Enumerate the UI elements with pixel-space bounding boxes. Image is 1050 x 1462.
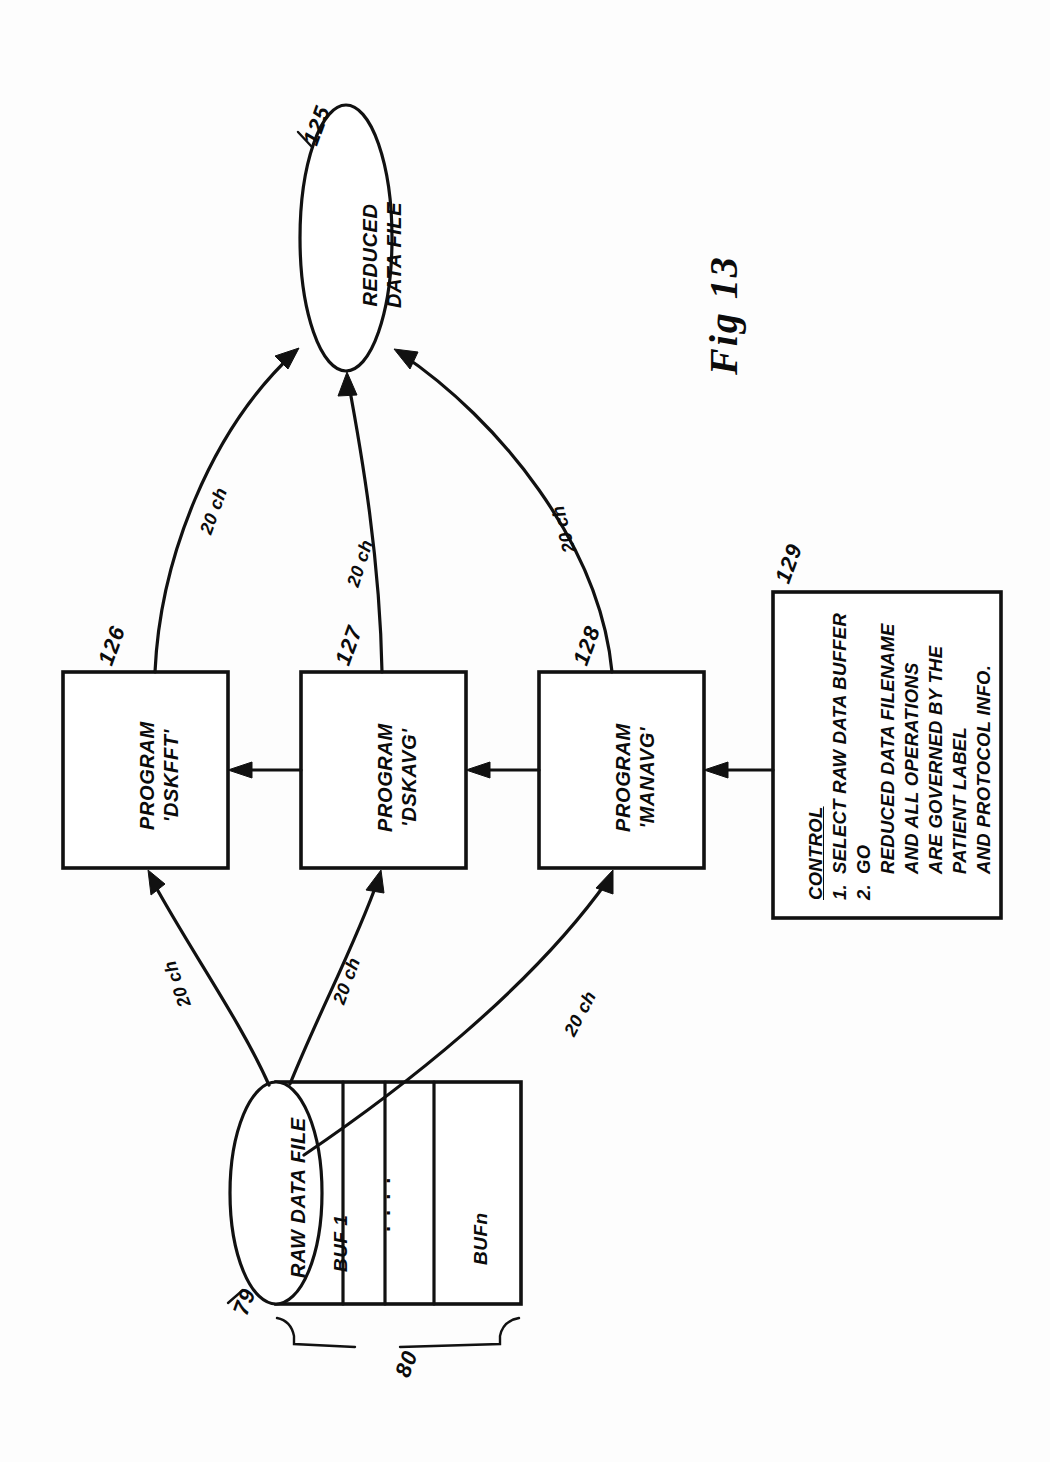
program-dskavg-line1: PROGRAM [374, 723, 396, 832]
reduced-data-file-line2: DATA FILE [383, 202, 405, 308]
arrowhead-raw-to-dskfft [148, 870, 165, 895]
control-item-1: 1.SELECT RAW DATA BUFFER [828, 613, 852, 900]
control-item-2-text: GO [853, 845, 874, 874]
control-note-line-4: PATIENT LABEL [948, 613, 972, 900]
edge-raw-to-dskavg [290, 880, 378, 1084]
control-item-1-num: 1. [828, 874, 852, 900]
reduced-data-file-label: REDUCED DATA FILE [358, 202, 407, 308]
buffer-brace [277, 1318, 519, 1347]
control-heading: CONTROL [804, 806, 828, 900]
control-item-2-num: 2. [852, 874, 876, 900]
control-item-2: 2.GO [852, 613, 876, 900]
program-dskfft-line1: PROGRAM [136, 721, 158, 830]
patent-figure-sheet: REDUCED DATA FILE 125 PROGRAM 'DSKFFT' 1… [0, 0, 1050, 1462]
arrowhead-raw-to-dskavg [366, 870, 384, 893]
arrowhead-dskavg-to-dskfft [228, 762, 252, 778]
arrowhead-manavg-to-reduced [394, 349, 418, 369]
control-note-line-1: REDUCED DATA FILENAME [876, 613, 900, 900]
control-note-line-5: AND PROTOCOL INFO. [972, 613, 996, 900]
control-note-line-3: ARE GOVERNED BY THE [924, 613, 948, 900]
program-dskavg-line2: 'DSKAVG' [398, 728, 420, 826]
buffer-first-label: BUF 1 [330, 1215, 352, 1272]
buffer-last-label: BUFn [470, 1212, 492, 1265]
arrowhead-control-to-manavg [704, 762, 728, 778]
raw-data-file-label: RAW DATA FILE [286, 1117, 310, 1278]
control-note-line-2: AND ALL OPERATIONS [900, 613, 924, 900]
arrowhead-dskavg-to-reduced [338, 372, 357, 396]
program-manavg-line2: 'MANAVG' [636, 727, 658, 829]
program-manavg-line1: PROGRAM [612, 723, 634, 832]
program-dskfft-label: PROGRAM 'DSKFFT' [135, 721, 184, 830]
program-dskavg-label: PROGRAM 'DSKAVG' [373, 723, 422, 832]
figure-title: Fig 13 [700, 255, 747, 375]
control-content: CONTROL 1.SELECT RAW DATA BUFFER 2.GO RE… [804, 613, 996, 900]
buffer-ellipsis: .... [370, 1168, 396, 1232]
edge-dskfft-to-reduced [155, 352, 295, 672]
program-manavg-label: PROGRAM 'MANAVG' [611, 723, 660, 832]
program-dskfft-line2: 'DSKFFT' [160, 729, 182, 822]
raw-data-file-text: RAW DATA FILE [287, 1117, 309, 1278]
arrowhead-manavg-to-dskavg [466, 762, 490, 778]
control-item-1-text: SELECT RAW DATA BUFFER [829, 613, 850, 874]
reduced-data-file-line1: REDUCED [359, 203, 381, 306]
